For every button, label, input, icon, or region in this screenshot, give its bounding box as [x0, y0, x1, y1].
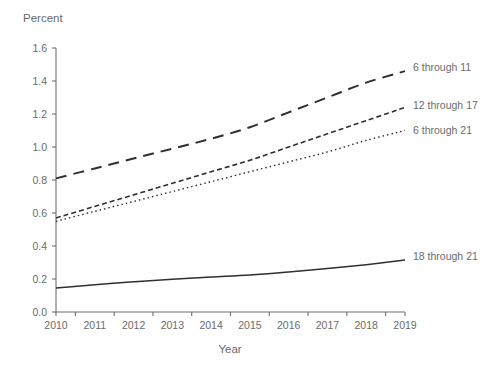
x-tick-label: 2019 [393, 319, 417, 331]
series-line-0 [56, 71, 405, 178]
x-tick-label: 2017 [316, 319, 340, 331]
x-tick-label: 2014 [199, 319, 223, 331]
legend-label-3: 18 through 21 [413, 250, 478, 262]
x-tick-label: 2013 [161, 319, 185, 331]
x-axis-title-group: Year [218, 343, 241, 355]
y-axis-title: Percent [23, 12, 63, 24]
legend-label-0: 6 through 11 [413, 61, 471, 73]
x-tick-label: 2010 [44, 319, 68, 331]
y-axis-ticks: 0.00.20.40.60.81.01.21.41.6 [32, 42, 56, 318]
x-tick-label: 2012 [122, 319, 146, 331]
series-line-2 [56, 131, 405, 222]
y-tick-label: 1.4 [32, 75, 47, 87]
y-tick-label: 0.4 [32, 240, 47, 252]
series-line-3 [56, 260, 405, 288]
legend-label-1: 12 through 17 [413, 99, 478, 111]
legend-label-2: 6 through 21 [413, 124, 472, 136]
y-tick-label: 1.0 [32, 141, 47, 153]
series-line-1 [56, 107, 405, 218]
y-tick-label: 0.8 [32, 174, 47, 186]
x-tick-label: 2018 [355, 319, 379, 331]
y-axis-title-group: Percent [23, 12, 63, 24]
y-tick-label: 0.0 [32, 306, 47, 318]
chart-container: Percent Year 0.00.20.40.60.81.01.21.41.6… [0, 0, 497, 368]
x-tick-label: 2011 [83, 319, 106, 331]
x-axis-title: Year [218, 343, 241, 355]
y-tick-label: 1.6 [32, 42, 47, 54]
x-tick-label: 2015 [238, 319, 262, 331]
x-axis-ticks: 2010201120122013201420152016201720182019 [44, 312, 417, 331]
x-tick-label: 2016 [277, 319, 301, 331]
series-lines [56, 71, 405, 288]
y-tick-label: 1.2 [32, 108, 47, 120]
y-tick-label: 0.2 [32, 273, 47, 285]
chart-legend: 6 through 1112 through 176 through 2118 … [413, 61, 478, 262]
line-chart: Percent Year 0.00.20.40.60.81.01.21.41.6… [0, 0, 497, 368]
y-tick-label: 0.6 [32, 207, 47, 219]
